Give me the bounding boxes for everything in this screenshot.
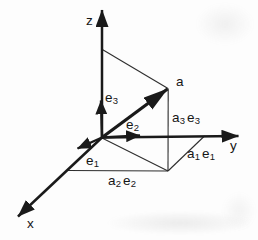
basis-label-e1: e1 bbox=[86, 154, 99, 167]
coeff-text: a bbox=[187, 146, 195, 161]
component-label-a2e2: a2e2 bbox=[108, 174, 136, 187]
a2e2-component-line bbox=[68, 171, 168, 172]
subscript-text: 2 bbox=[134, 122, 139, 133]
basis-label-e3: e3 bbox=[105, 91, 118, 104]
component-label-a3e3: a3e3 bbox=[172, 111, 200, 124]
basis-text: e bbox=[123, 173, 131, 188]
e3-vector bbox=[101, 101, 102, 138]
coeff-text: a bbox=[108, 173, 116, 188]
e1-vector bbox=[78, 138, 103, 149]
symbol-text: e bbox=[86, 153, 94, 168]
basis-subscript: 2 bbox=[131, 178, 136, 189]
axis-label-x: x bbox=[27, 217, 34, 230]
symbol-text: e bbox=[126, 117, 134, 132]
box-top-edge-line bbox=[102, 49, 169, 89]
axis-label-z: z bbox=[86, 14, 93, 27]
x-axis bbox=[18, 138, 102, 217]
subscript-text: 1 bbox=[94, 158, 99, 169]
coeff-text: a bbox=[172, 110, 180, 125]
basis-subscript: 1 bbox=[210, 151, 215, 162]
symbol-text: e bbox=[105, 90, 113, 105]
basis-label-e2: e2 bbox=[126, 118, 139, 131]
basis-text: e bbox=[187, 110, 195, 125]
coeff-subscript: 1 bbox=[195, 151, 200, 162]
figure-canvas: z y x a e3 e2 e1 a3e3 a1e1 a2e2 bbox=[0, 0, 258, 240]
vector-a-label: a bbox=[176, 75, 184, 88]
basis-subscript: 3 bbox=[195, 115, 200, 126]
coeff-subscript: 2 bbox=[116, 178, 121, 189]
subscript-text: 3 bbox=[113, 95, 118, 106]
coeff-subscript: 3 bbox=[180, 115, 185, 126]
xy-projection-line bbox=[102, 138, 168, 171]
basis-text: e bbox=[202, 146, 210, 161]
axis-label-y: y bbox=[230, 139, 237, 152]
component-label-a1e1: a1e1 bbox=[187, 147, 215, 160]
